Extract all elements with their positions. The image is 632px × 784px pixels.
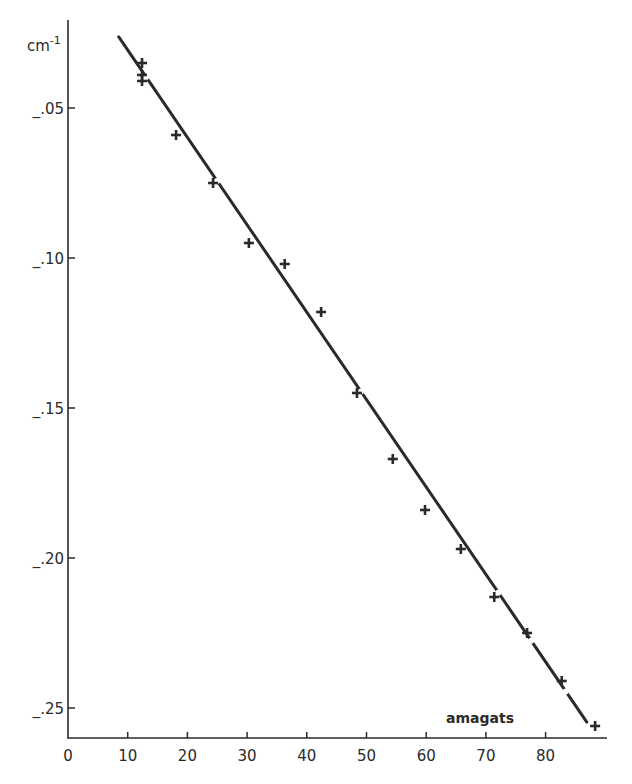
plus-marker: [388, 454, 398, 464]
fit-line-stroke: [119, 37, 587, 722]
x-tick-label: 20: [178, 747, 197, 765]
y-axis: cm-1 _.05_.10_.15_.20_.25: [27, 20, 75, 738]
y-tick-label: _.05: [32, 100, 64, 119]
y-tick-label: _.20: [32, 550, 64, 569]
chart: cm-1 _.05_.10_.15_.20_.25 01020304050607…: [0, 0, 632, 784]
truncated-caption: [0, 776, 632, 784]
x-axis-ticks: 01020304050607080: [63, 732, 555, 765]
plus-marker: [244, 238, 254, 248]
plus-marker: [590, 721, 600, 731]
x-tick-label: 60: [417, 747, 436, 765]
fit-line-gap: [563, 688, 569, 694]
plus-marker: [280, 259, 290, 269]
fit-line-gap: [495, 590, 501, 596]
x-axis-title: amagats: [446, 710, 514, 726]
plus-marker: [316, 307, 326, 317]
x-tick-label: 50: [357, 747, 376, 765]
x-axis: 01020304050607080 amagats: [63, 710, 607, 765]
x-tick-label: 10: [118, 747, 137, 765]
plus-marker: [171, 130, 181, 140]
data-points: [137, 58, 600, 731]
y-tick-label: _.10: [32, 250, 64, 269]
x-tick-label: 30: [238, 747, 257, 765]
x-tick-label: 70: [476, 747, 495, 765]
fit-line-gap: [528, 638, 534, 644]
y-axis-unit-label: cm-1: [27, 34, 61, 55]
fit-line: [119, 37, 587, 722]
plus-marker: [557, 676, 567, 686]
plus-marker: [456, 544, 466, 554]
plus-marker: [420, 505, 430, 515]
x-tick-label: 40: [297, 747, 316, 765]
y-tick-label: _.15: [32, 400, 64, 419]
x-tick-label: 80: [536, 747, 555, 765]
x-tick-label: 0: [63, 747, 73, 765]
y-tick-label: _.25: [32, 700, 64, 719]
